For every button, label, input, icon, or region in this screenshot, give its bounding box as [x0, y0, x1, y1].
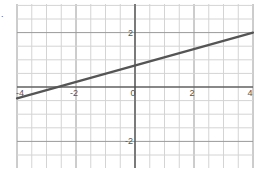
line-chart: -4-20242-2	[0, 0, 263, 175]
x-tick-label: 2	[189, 88, 194, 98]
x-tick-label: 0	[130, 88, 135, 98]
y-tick-label: 2	[128, 28, 133, 38]
x-tick-label: 4	[247, 88, 252, 98]
axes	[17, 4, 253, 168]
y-tick-label: -2	[125, 136, 133, 146]
x-tick-label: -2	[70, 88, 78, 98]
